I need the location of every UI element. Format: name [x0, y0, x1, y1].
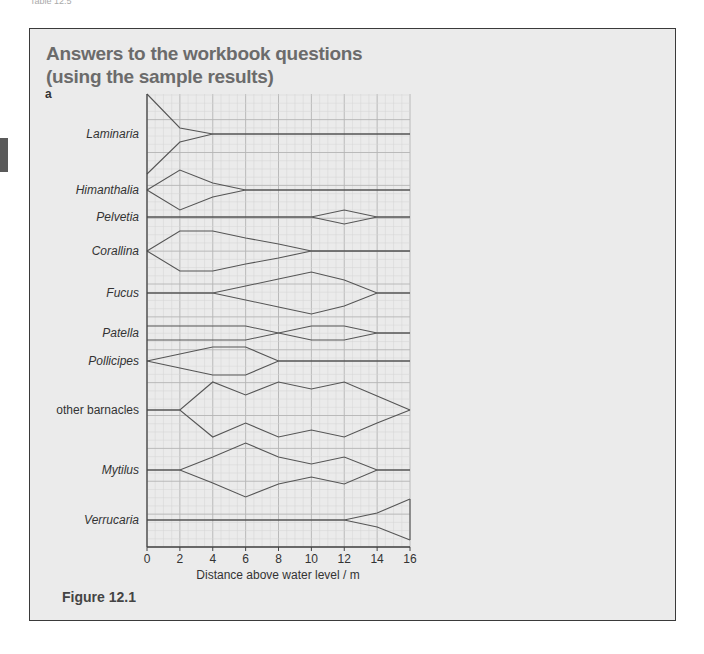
species-label: other barnacles — [56, 403, 139, 417]
x-tick-label: 2 — [177, 552, 184, 566]
x-tick-label: 12 — [338, 552, 352, 566]
kite-diagram: 0246810121416 LaminariaHimanthaliaPelvet… — [0, 0, 704, 654]
x-tick-label: 10 — [305, 552, 319, 566]
species-label: Laminaria — [86, 127, 139, 141]
species-label: Pelvetia — [96, 210, 139, 224]
x-tick-label: 16 — [403, 552, 417, 566]
species-label: Fucus — [106, 286, 139, 300]
x-tick-label: 8 — [275, 552, 282, 566]
grid — [147, 94, 410, 547]
x-axis-title: Distance above water level / m — [196, 568, 359, 582]
species-label: Himanthalia — [76, 183, 140, 197]
x-tick-label: 6 — [242, 552, 249, 566]
species-label: Pollicipes — [88, 354, 139, 368]
species-label: Mytilus — [102, 463, 139, 477]
figure-caption: Figure 12.1 — [62, 589, 136, 605]
x-tick-label: 4 — [209, 552, 216, 566]
species-label: Patella — [102, 326, 139, 340]
x-tick-label: 0 — [144, 552, 151, 566]
x-axis: 0246810121416 — [144, 547, 417, 566]
species-label: Verrucaria — [84, 513, 139, 527]
species-label: Corallina — [92, 244, 140, 258]
x-tick-label: 14 — [370, 552, 384, 566]
species-labels: LaminariaHimanthaliaPelvetiaCorallinaFuc… — [56, 127, 139, 527]
